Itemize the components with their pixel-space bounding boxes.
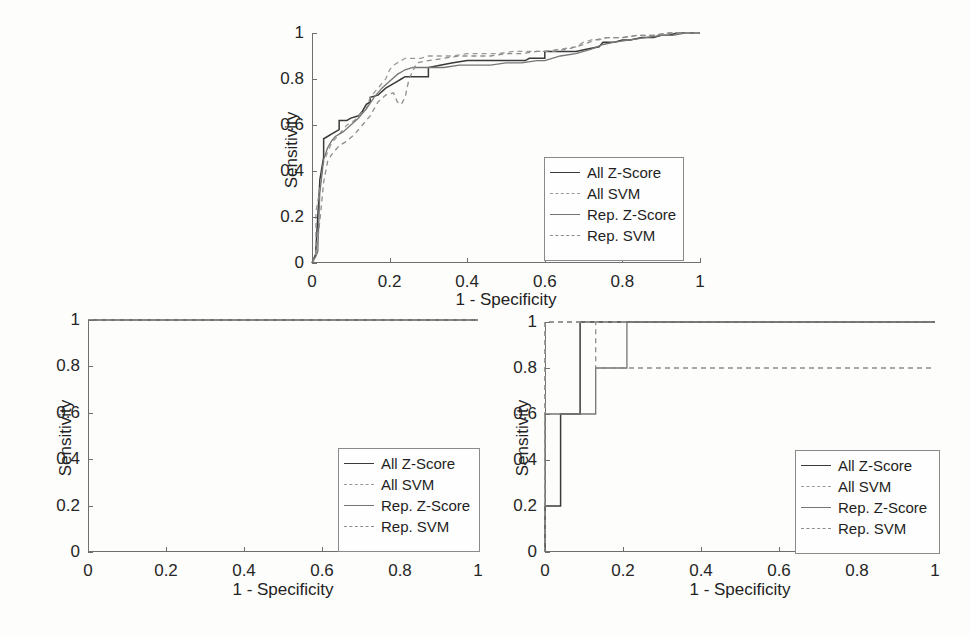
- x-tick-mark: [244, 547, 245, 552]
- legend-label: All SVM: [587, 186, 640, 201]
- y-tick-mark: [545, 460, 550, 461]
- y-tick-mark: [312, 217, 317, 218]
- legend-entry: All SVM: [801, 476, 932, 497]
- legend-label: Rep. SVM: [587, 228, 655, 243]
- legend-swatch-icon: [801, 528, 831, 529]
- y-tick-mark: [545, 506, 550, 507]
- legend-label: Rep. SVM: [838, 521, 906, 536]
- legend-bottom-right: All Z-ScoreAll SVMRep. Z-ScoreRep. SVM: [795, 450, 940, 554]
- y-tick-label: 0.2: [497, 496, 537, 516]
- x-tick-label: 0.4: [689, 561, 713, 581]
- legend-entry: Rep. SVM: [801, 518, 932, 539]
- y-axis-title-bottom-right: Sensitivity: [513, 378, 533, 498]
- y-tick-mark: [312, 79, 317, 80]
- x-axis-title-bottom-left: 1 - Specificity: [232, 580, 333, 600]
- y-tick-mark: [312, 125, 317, 126]
- y-tick-label: 0.2: [264, 207, 304, 227]
- x-tick-label: 0.8: [845, 561, 869, 581]
- x-tick-mark: [623, 547, 624, 552]
- legend-label: Rep. Z-Score: [381, 498, 470, 513]
- y-tick-mark: [88, 459, 93, 460]
- legend-swatch-icon: [344, 505, 374, 506]
- x-tick-label: 0.4: [232, 561, 256, 581]
- legend-bottom-left: All Z-ScoreAll SVMRep. Z-ScoreRep. SVM: [338, 448, 480, 552]
- legend-swatch-icon: [344, 463, 374, 464]
- x-tick-label: 0.8: [388, 561, 412, 581]
- legend-swatch-icon: [801, 507, 831, 508]
- x-tick-mark: [390, 258, 391, 263]
- legend-entry: All Z-Score: [344, 453, 472, 474]
- legend-entry: Rep. Z-Score: [344, 495, 472, 516]
- x-tick-label: 0.4: [455, 272, 479, 292]
- legend-label: All Z-Score: [381, 456, 455, 471]
- x-tick-label: 1: [473, 561, 482, 581]
- y-tick-label: 0.2: [40, 496, 80, 516]
- x-tick-label: 0.2: [154, 561, 178, 581]
- legend-label: Rep. SVM: [381, 519, 449, 534]
- x-axis-title-top: 1 - Specificity: [455, 290, 556, 310]
- y-tick-mark: [88, 413, 93, 414]
- x-tick-label: 0.6: [310, 561, 334, 581]
- x-axis-title-bottom-right: 1 - Specificity: [689, 580, 790, 600]
- x-tick-mark: [322, 547, 323, 552]
- y-tick-mark: [88, 506, 93, 507]
- y-tick-label: 0.8: [497, 358, 537, 378]
- y-tick-label: 1: [40, 310, 80, 330]
- x-tick-label: 0.8: [611, 272, 635, 292]
- legend-swatch-icon: [344, 526, 374, 527]
- legend-entry: All Z-Score: [801, 455, 932, 476]
- legend-entry: Rep. SVM: [550, 225, 676, 246]
- x-tick-mark: [166, 547, 167, 552]
- x-tick-label: 0: [83, 561, 92, 581]
- legend-entry: All SVM: [550, 183, 676, 204]
- x-tick-label: 0: [307, 272, 316, 292]
- x-tick-label: 0.2: [611, 561, 635, 581]
- x-tick-mark: [700, 258, 701, 263]
- x-tick-label: 0.6: [533, 272, 557, 292]
- y-tick-label: 1: [264, 23, 304, 43]
- y-tick-mark: [312, 171, 317, 172]
- legend-swatch-icon: [801, 486, 831, 487]
- legend-entry: Rep. SVM: [344, 516, 472, 537]
- y-axis-title-bottom-left: Sensitivity: [56, 378, 76, 498]
- legend-entry: Rep. Z-Score: [550, 204, 676, 225]
- y-tick-mark: [545, 368, 550, 369]
- y-tick-label: 0.8: [40, 356, 80, 376]
- y-tick-mark: [312, 263, 317, 264]
- y-tick-mark: [88, 552, 93, 553]
- legend-swatch-icon: [550, 193, 580, 194]
- y-tick-label: 1: [497, 312, 537, 332]
- x-tick-label: 1: [695, 272, 704, 292]
- legend-entry: Rep. Z-Score: [801, 497, 932, 518]
- legend-label: All SVM: [838, 479, 891, 494]
- legend-swatch-icon: [550, 214, 580, 215]
- y-tick-mark: [545, 414, 550, 415]
- legend-label: Rep. Z-Score: [838, 500, 927, 515]
- x-tick-label: 1: [930, 561, 939, 581]
- legend-label: All SVM: [381, 477, 434, 492]
- y-tick-label: 0: [497, 542, 537, 562]
- legend-label: Rep. Z-Score: [587, 207, 676, 222]
- y-tick-label: 0: [264, 253, 304, 273]
- x-tick-label: 0: [540, 561, 549, 581]
- legend-entry: All Z-Score: [550, 162, 676, 183]
- legend-label: All Z-Score: [587, 165, 661, 180]
- legend-swatch-icon: [344, 484, 374, 485]
- y-tick-mark: [312, 33, 317, 34]
- x-tick-mark: [467, 258, 468, 263]
- x-tick-mark: [701, 547, 702, 552]
- y-tick-mark: [545, 552, 550, 553]
- legend-swatch-icon: [550, 235, 580, 236]
- x-tick-mark: [779, 547, 780, 552]
- y-tick-label: 0: [40, 542, 80, 562]
- legend-top: All Z-ScoreAll SVMRep. Z-ScoreRep. SVM: [544, 157, 684, 261]
- legend-swatch-icon: [550, 172, 580, 173]
- y-tick-mark: [545, 322, 550, 323]
- y-tick-mark: [88, 366, 93, 367]
- x-tick-label: 0.6: [767, 561, 791, 581]
- y-tick-label: 0.8: [264, 69, 304, 89]
- y-tick-mark: [88, 320, 93, 321]
- legend-swatch-icon: [801, 465, 831, 466]
- x-tick-label: 0.2: [378, 272, 402, 292]
- legend-entry: All SVM: [344, 474, 472, 495]
